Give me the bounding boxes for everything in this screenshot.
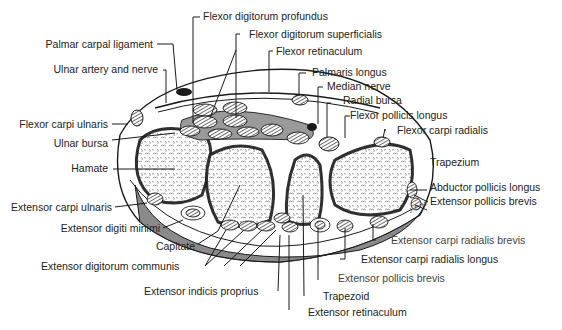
label-flexor-pollicis-longus: Flexor pollicis longus [350, 109, 447, 121]
ulnar-artery-nerve [176, 88, 192, 96]
label-extensor-pollicis-brevis-right: Extensor pollicis brevis [430, 195, 537, 207]
label-flexor-carpi-radialis: Flexor carpi radialis [397, 124, 488, 136]
label-flexor-retinaculum: Flexor retinaculum [276, 45, 362, 57]
trapezium-bone [330, 144, 412, 215]
label-extensor-carpi-radialis-brevis: Extensor carpi radialis brevis [391, 234, 525, 246]
label-extensor-carpi-ulnaris: Extensor carpi ulnaris [0, 201, 112, 213]
label-palmar-carpal-ligament: Palmar carpal ligament [40, 38, 153, 50]
label-ulnar-bursa: Ulnar bursa [30, 137, 108, 149]
label-capitate: Capitate [100, 240, 195, 252]
label-extensor-pollicis-brevis-bottom: Extensor pollicis brevis [338, 272, 445, 284]
label-palmaris-longus: Palmaris longus [312, 66, 387, 78]
palmaris-longus-tendon [292, 95, 308, 105]
median-nerve [307, 123, 317, 131]
trapezoid-bone [286, 155, 322, 225]
flexor-pollicis-longus-tendon [319, 137, 339, 151]
flexor-carpi-radialis-tendon [374, 137, 390, 147]
label-abductor-pollicis-longus: Abductor pollicis longus [430, 181, 540, 193]
label-hamate: Hamate [30, 162, 108, 174]
label-trapezium: Trapezium [430, 156, 479, 168]
label-extensor-digitorum-communis: Extensor digitorum communis [41, 260, 179, 272]
label-ulnar-artery-and-nerve: Ulnar artery and nerve [30, 63, 158, 75]
label-extensor-retinaculum: Extensor retinaculum [308, 306, 407, 318]
capitate-bone [206, 146, 273, 227]
label-flexor-digitorum-profundus: Flexor digitorum profundus [203, 10, 328, 22]
label-flexor-carpi-ulnaris: Flexor carpi ulnaris [0, 118, 108, 130]
label-flexor-digitorum-superficialis: Flexor digitorum superficialis [249, 28, 382, 40]
flexor-carpi-ulnaris-tendon [131, 110, 143, 126]
label-trapezoid: Trapezoid [323, 290, 369, 302]
label-extensor-indicis-proprius: Extensor indicis proprius [144, 285, 258, 297]
label-median-nerve: Median nerve [327, 80, 391, 92]
label-extensor-digiti-minimi: Extensor digiti minimi [20, 222, 160, 234]
label-radial-bursa: Radial bursa [343, 94, 402, 106]
label-extensor-carpi-radialis-longus: Extensor carpi radialis longus [361, 253, 498, 265]
